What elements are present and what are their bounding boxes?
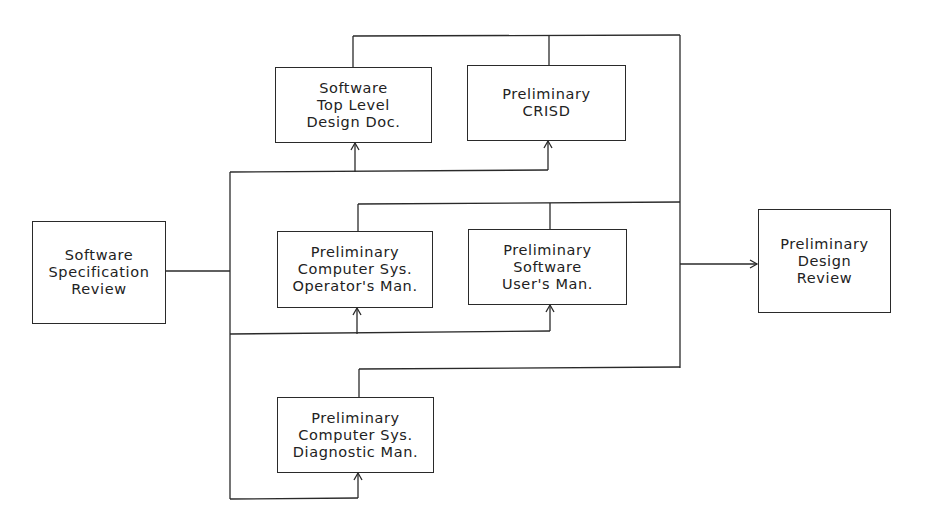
node-label-line: Preliminary [311,244,399,261]
node-label-line: CRISD [523,103,571,120]
node-label-line: Design [798,253,852,270]
node-label-line: Preliminary [780,236,868,253]
top-return [353,35,680,36]
node-label-line: Preliminary [503,242,591,259]
node-label-line: Software [513,259,582,276]
bottom-loop [230,498,358,499]
node-label-line: Review [797,270,852,287]
node-label-line: Preliminary [502,86,590,103]
middle-return [358,202,680,204]
node-label-line: Software [65,247,134,264]
node-label-line: Review [71,281,126,298]
bottom-return [359,367,680,369]
node-software-top-level-design-doc: Software Top Level Design Doc. [275,67,432,143]
node-label-line: Operator's Man. [292,278,417,295]
node-label-line: Design Doc. [307,114,401,131]
node-preliminary-crisd: Preliminary CRISD [467,65,626,141]
node-label-line: Preliminary [311,410,399,427]
node-preliminary-design-review: Preliminary Design Review [758,209,891,313]
node-label-line: User's Man. [502,276,593,293]
node-label-line: Diagnostic Man. [293,444,418,461]
node-preliminary-software-users-man: Preliminary Software User's Man. [468,229,627,305]
node-label-line: Specification [49,264,150,281]
node-label-line: Computer Sys. [298,261,412,278]
middle-branch [230,331,550,334]
node-software-specification-review: Software Specification Review [32,221,166,324]
node-label-line: Software [319,80,388,97]
node-label-line: Top Level [317,97,390,114]
top-branch [230,170,548,172]
node-preliminary-computer-sys-operators-man: Preliminary Computer Sys. Operator's Man… [277,231,433,308]
node-label-line: Computer Sys. [298,427,412,444]
node-preliminary-computer-sys-diagnostic-man: Preliminary Computer Sys. Diagnostic Man… [277,397,434,473]
